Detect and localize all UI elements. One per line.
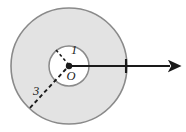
geometry-figure: 1 3 O	[0, 0, 186, 132]
radius-label-1: 1	[71, 43, 77, 57]
radius-label-3: 3	[32, 84, 39, 98]
center-label-o: O	[66, 69, 75, 83]
annulus-diagram-canvas: 1 3 O	[0, 0, 186, 132]
